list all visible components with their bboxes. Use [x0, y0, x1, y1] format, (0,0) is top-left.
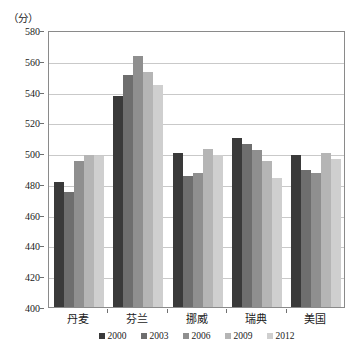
bar: [242, 144, 252, 307]
y-axis-tick-label: 540: [25, 87, 40, 98]
legend-label: 2012: [276, 331, 295, 341]
legend-item[interactable]: 2009: [225, 331, 253, 341]
bar-group: [232, 32, 282, 307]
y-axis-unit-label: （分）: [8, 10, 39, 25]
bar: [262, 161, 272, 307]
bar: [252, 150, 262, 307]
bar: [331, 159, 341, 307]
y-axis-tick-label: 440: [25, 241, 40, 252]
bar: [143, 72, 153, 307]
legend-label: 2009: [234, 331, 253, 341]
y-axis-tick-label: 580: [25, 26, 40, 37]
legend-swatch-icon: [183, 333, 189, 339]
y-axis-tick-label: 420: [25, 272, 40, 283]
y-axis-tick-mark: [40, 277, 44, 278]
y-axis-tick-label: 560: [25, 56, 40, 67]
plot-area: [48, 31, 345, 308]
legend-label: 2003: [150, 331, 169, 341]
legend-swatch-icon: [267, 333, 273, 339]
bar: [203, 149, 213, 308]
bar: [301, 170, 311, 307]
bar: [74, 161, 84, 307]
bar: [291, 155, 301, 307]
bar: [153, 85, 163, 307]
bar: [123, 75, 133, 307]
x-axis-tick-mark: [167, 309, 168, 313]
bar-group: [173, 32, 223, 307]
legend-item[interactable]: 2006: [183, 331, 211, 341]
y-axis-tick-mark: [40, 185, 44, 186]
bar: [321, 153, 331, 307]
bar: [183, 176, 193, 307]
y-axis-tick-label: 460: [25, 210, 40, 221]
bar: [54, 182, 64, 307]
legend-item[interactable]: 2012: [267, 331, 295, 341]
x-axis-tick-mark: [107, 309, 108, 313]
y-axis-tick-label: 500: [25, 149, 40, 160]
y-axis-tick-mark: [40, 216, 44, 217]
y-axis-tick-mark: [40, 154, 44, 155]
legend-item[interactable]: 2000: [99, 331, 127, 341]
x-axis-tick-labels: 丹麦芬兰挪威瑞典美国: [48, 310, 345, 330]
legend-swatch-icon: [99, 333, 105, 339]
legend-label: 2000: [108, 331, 127, 341]
y-axis-tick-labels: 580560540520500480460440420400: [0, 31, 44, 308]
bar: [133, 56, 143, 307]
bar: [173, 153, 183, 307]
bar: [232, 138, 242, 307]
legend-swatch-icon: [141, 333, 147, 339]
x-axis-tick-label: 丹麦: [67, 310, 89, 326]
bar: [272, 178, 282, 307]
chart-legend: 20002003200620092012: [48, 331, 345, 341]
bar: [64, 192, 74, 307]
bar: [84, 155, 94, 307]
bar: [311, 173, 321, 307]
bars-layer: [49, 32, 344, 307]
x-axis-tick-label: 挪威: [186, 310, 208, 326]
y-axis-tick-mark: [40, 62, 44, 63]
x-axis-tick-label: 芬兰: [126, 310, 148, 326]
y-axis-tick-mark: [40, 31, 44, 32]
legend-item[interactable]: 2003: [141, 331, 169, 341]
x-axis-tick-label: 美国: [304, 310, 326, 326]
legend-swatch-icon: [225, 333, 231, 339]
y-axis-tick-label: 400: [25, 303, 40, 314]
y-axis-tick-label: 520: [25, 118, 40, 129]
bar: [94, 156, 104, 307]
bar-group: [54, 32, 104, 307]
x-axis-tick-mark: [286, 309, 287, 313]
x-axis-tick-mark: [226, 309, 227, 313]
x-axis-tick-label: 瑞典: [245, 310, 267, 326]
bar-group: [291, 32, 341, 307]
y-axis-tick-mark: [40, 246, 44, 247]
legend-label: 2006: [192, 331, 211, 341]
chart-page: （分） 580560540520500480460440420400 丹麦芬兰挪…: [0, 0, 352, 352]
y-axis-tick-mark: [40, 308, 44, 309]
bar: [193, 173, 203, 307]
y-axis-tick-mark: [40, 123, 44, 124]
y-axis-tick-mark: [40, 93, 44, 94]
bar: [113, 96, 123, 307]
bar-group: [113, 32, 163, 307]
bar: [213, 155, 223, 307]
y-axis-tick-label: 480: [25, 179, 40, 190]
